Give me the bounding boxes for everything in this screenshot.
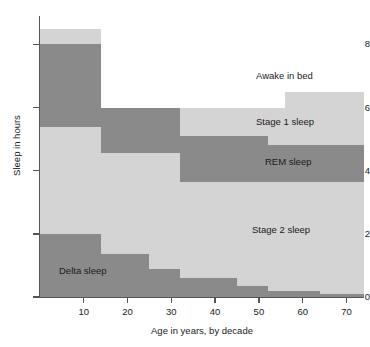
y-tick-4 [33,170,39,171]
y-axis-title: Sleep in hours [11,101,22,191]
y-tick-2 [33,233,39,234]
y-axis-line [39,16,40,298]
x-tick-10 [83,298,84,303]
y-tick-6 [33,107,39,108]
x-tick-40 [214,298,215,303]
y-tick-label-0: 0 [344,292,370,302]
stacked-step-area-svg [40,16,364,297]
y-tick-label-8: 8 [344,39,370,49]
band-label-awake-in-bed: Awake in bed [256,71,313,81]
band-label-delta-sleep: Delta sleep [59,266,107,276]
x-tick-60 [302,298,303,303]
band-label-rem-sleep: REM sleep [265,157,311,167]
sleep-stages-chart: 0246810203040506070 Sleep in hours Age i… [0,0,370,347]
x-axis-title: Age in years, by decade [40,325,364,336]
y-tick-0 [33,296,39,297]
x-axis-line [39,297,364,298]
x-tick-label-40: 40 [199,307,231,317]
y-tick-8 [33,44,39,45]
x-tick-50 [258,298,259,303]
y-tick-label-6: 6 [344,103,370,113]
band-label-stage-1-sleep: Stage 1 sleep [256,117,314,127]
x-tick-30 [171,298,172,303]
x-tick-label-30: 30 [155,307,187,317]
x-tick-70 [346,298,347,303]
y-tick-label-4: 4 [344,166,370,176]
x-tick-20 [127,298,128,303]
x-tick-label-60: 60 [287,307,319,317]
x-tick-label-10: 10 [68,307,100,317]
plot-area [40,16,364,297]
x-tick-label-50: 50 [243,307,275,317]
band-label-stage-2-sleep: Stage 2 sleep [252,225,310,235]
x-tick-label-70: 70 [330,307,362,317]
y-tick-label-2: 2 [344,229,370,239]
x-tick-label-20: 20 [112,307,144,317]
